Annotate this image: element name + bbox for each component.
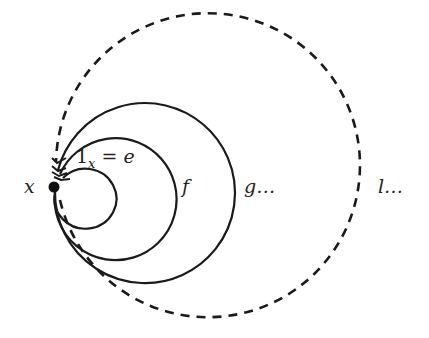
point-label-x: x [24,175,35,197]
arrowhead-e-icon [54,177,70,180]
label-identity-eq: = e [95,145,134,167]
loop-diagram: x 1x = e f g… l… [0,0,429,338]
loop-g [55,103,235,283]
loop-e [54,169,116,229]
label-identity-one: 1 [76,145,88,167]
label-identity: 1x = e [76,145,135,171]
arrowhead-l-icon [52,158,66,163]
base-point [49,182,60,193]
label-l: l… [378,175,403,197]
label-f: f [180,175,192,197]
label-g: g… [244,175,275,197]
